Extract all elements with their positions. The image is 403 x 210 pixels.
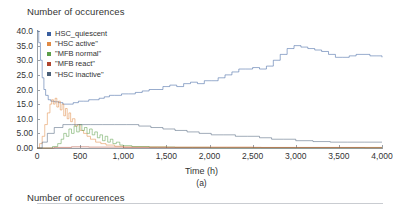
legend-item-label: HSC_quiescent <box>55 30 107 38</box>
chart-legend: HSC_quiescent"HSC active""MFB normal""MF… <box>47 29 107 79</box>
legend-item-label: "MFB react" <box>55 60 95 68</box>
x-axis-label: Time (h) <box>0 166 403 176</box>
legend-swatch-icon <box>47 42 51 46</box>
legend-item-label: "MFB normal" <box>55 50 101 58</box>
figure-root: Number of occurences 0.005.0010.015.020.… <box>0 0 403 210</box>
series-line <box>37 98 382 148</box>
legend-item[interactable]: "MFB react" <box>47 60 107 69</box>
panel-b-axis-line <box>37 203 383 204</box>
legend-item[interactable]: "MFB normal" <box>47 49 107 58</box>
legend-swatch-icon <box>47 32 51 36</box>
legend-swatch-icon <box>47 72 51 76</box>
legend-item[interactable]: "HSC active" <box>47 39 107 48</box>
legend-item-label: "HSC active" <box>55 40 98 48</box>
legend-item[interactable]: HSC_quiescent <box>47 29 107 38</box>
legend-item-label: "HSC inactive" <box>55 71 104 79</box>
page-title-secondary: Number of occurences <box>27 192 125 203</box>
legend-item[interactable]: "HSC inactive" <box>47 70 107 79</box>
legend-swatch-icon <box>47 52 51 56</box>
figure-caption: (a) <box>0 178 403 188</box>
legend-swatch-icon <box>47 62 51 66</box>
